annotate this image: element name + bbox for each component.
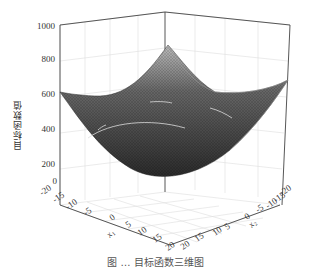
- svg-text:15: 15: [150, 231, 164, 245]
- svg-text:20: 20: [163, 239, 177, 253]
- svg-text:-5: -5: [81, 205, 93, 218]
- svg-text:1000: 1000: [37, 21, 56, 31]
- svg-text:600: 600: [42, 89, 56, 99]
- svg-text:x₁: x₁: [103, 227, 116, 240]
- svg-text:5: 5: [123, 219, 133, 230]
- svg-text:800: 800: [42, 54, 56, 64]
- svg-text:5: 5: [222, 221, 232, 232]
- svg-text:400: 400: [42, 124, 56, 134]
- x2-axis-ticks: -20 -15 -10 -5 0 5 10 15 20 x₂: [178, 182, 293, 251]
- svg-text:0: 0: [107, 212, 117, 223]
- svg-text:0: 0: [53, 176, 58, 186]
- paraboloid-surface: [60, 45, 288, 176]
- svg-text:15: 15: [192, 230, 206, 244]
- svg-text:20: 20: [178, 238, 192, 252]
- figure-caption: 图 … 目标函数三维图: [0, 254, 311, 269]
- z-axis-label: 目标函数值: [10, 100, 23, 150]
- z-axis-ticks: 1000 800 600 400 200 0: [37, 21, 58, 186]
- svg-text:200: 200: [42, 159, 56, 169]
- svg-text:-10: -10: [63, 196, 79, 211]
